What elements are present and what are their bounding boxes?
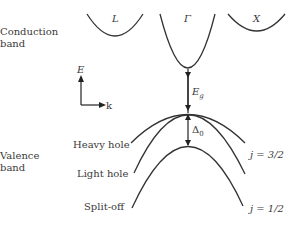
band-structure-diagram: Conduction band L Γ X E k Eg Δ0 Valence … [0,0,298,225]
x-valley-label: X [252,13,261,24]
k-axis-label: k [106,100,113,111]
valence-band-label-1: Valence [0,150,39,161]
split-off-curve [132,146,243,208]
spin-orbit-arrow-head-down [185,140,191,146]
energy-axis-arrowhead [78,75,84,82]
conduction-band-label-1: Conduction [0,26,59,37]
conduction-band-label-2: band [0,38,26,49]
energy-axis-label: E [76,64,85,75]
split-off-label: Split-off [84,201,125,212]
j-one-half-label: j = 1/2 [248,203,284,214]
gamma-valley-label: Γ [183,13,192,24]
l-valley-label: L [111,13,119,24]
valence-band-label-2: band [0,162,26,173]
j-three-halves-label: j = 3/2 [248,149,284,160]
heavy-hole-label: Heavy hole [73,139,130,150]
light-hole-label: Light hole [77,168,129,179]
band-gap-label: Eg [191,86,204,100]
light-hole-curve [134,115,245,174]
k-axis-arrowhead [99,102,106,108]
spin-orbit-label: Δ0 [192,124,204,138]
